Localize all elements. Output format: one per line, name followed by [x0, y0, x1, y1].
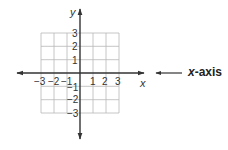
callout-label: x-axis: [188, 65, 222, 79]
x-tick-label: −2: [48, 76, 60, 87]
callout-var: x: [188, 65, 195, 79]
y-tick-label: 1: [72, 55, 78, 66]
callout-suffix: -axis: [195, 65, 222, 79]
y-tick-label: −2: [67, 94, 79, 105]
x-axis-callout: x-axis: [184, 65, 222, 79]
x-tick-label: 1: [90, 76, 96, 87]
x-axis-label: x: [139, 77, 146, 89]
y-tick-label: −3: [67, 108, 79, 119]
x-tick-label: 3: [115, 76, 121, 87]
coordinate-plane-diagram: y x −3 −2 −1 1 2 3 3 2 1 −1 −2 −3 x-axis: [0, 0, 228, 150]
x-tick-label: −3: [34, 76, 46, 87]
y-tick-label: 3: [72, 28, 78, 39]
x-tick-label: 2: [102, 76, 108, 87]
y-tick-label: 2: [72, 41, 78, 52]
y-tick-label: −1: [67, 82, 79, 93]
y-axis-label: y: [69, 6, 77, 18]
